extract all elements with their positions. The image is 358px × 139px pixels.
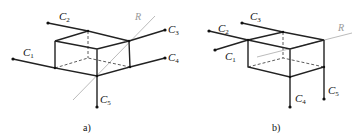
conductor-c1-a: [13, 59, 55, 68]
label-c2-b: C2: [218, 22, 229, 36]
caption-a: a): [83, 122, 91, 134]
label-c3-b: C3: [250, 10, 261, 24]
line-r-a: [73, 16, 155, 100]
panel-a: R C2 C3 C1 C4 C5 a): [11, 10, 179, 134]
label-r-b: R: [337, 22, 344, 33]
box-b: [248, 32, 324, 77]
label-c1-b: C1: [225, 50, 236, 64]
figure-canvas: R C2 C3 C1 C4 C5 a) R: [0, 0, 358, 139]
caption-b: b): [272, 122, 280, 134]
label-c4-b: C4: [295, 92, 306, 106]
label-c5-a: C5: [100, 93, 111, 107]
box-hidden-edges-a: [55, 31, 130, 68]
label-c2-a: C2: [59, 10, 70, 24]
nodes-a: [11, 21, 166, 108]
conductor-c1-b: [215, 40, 248, 50]
conductor-c4-a: [130, 58, 165, 67]
label-r-a: R: [134, 11, 141, 22]
label-c1-a: C1: [23, 46, 34, 60]
conductor-c3-b: [242, 23, 283, 32]
label-c3-a: C3: [168, 23, 179, 37]
label-c4-a: C4: [168, 51, 179, 65]
conductor-c3-a: [129, 30, 165, 41]
conductor-c2-a: [48, 23, 88, 31]
panel-b: R C3 C2 C1 C4 C5 b): [207, 10, 352, 134]
label-c5-b: C5: [328, 84, 339, 98]
